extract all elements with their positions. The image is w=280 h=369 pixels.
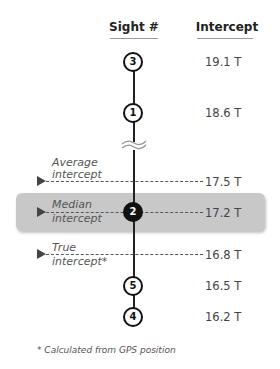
sight-5-intercept: 16.5 T <box>205 279 241 293</box>
intercept-column-header: Intercept <box>195 20 259 34</box>
average-intercept-label: Average intercept <box>52 157 102 181</box>
axis-break-icon <box>120 138 148 152</box>
median-intercept-value: 17.2 T <box>205 206 241 220</box>
sight-header-underline <box>110 38 158 39</box>
intercept-header-underline <box>197 38 253 39</box>
median-arrow-icon <box>37 207 46 217</box>
footnote: * Calculated from GPS position <box>37 345 176 355</box>
sight-1-intercept: 18.6 T <box>205 106 241 120</box>
true-intercept-label: True intercept* <box>52 242 107 268</box>
sight-node-4: 4 <box>123 307 143 327</box>
average-arrow-icon <box>37 176 46 186</box>
true-arrow-icon <box>37 249 46 259</box>
sight-node-2: 2 <box>123 202 143 222</box>
sight-3-intercept: 19.1 T <box>205 55 241 69</box>
average-intercept-value: 17.5 T <box>205 175 241 189</box>
average-dashed-line <box>46 181 203 182</box>
sight-node-3: 3 <box>123 52 143 72</box>
timeline-line-top <box>133 62 135 142</box>
sight-column-header: Sight # <box>108 20 160 34</box>
sight-node-1: 1 <box>123 103 143 123</box>
sight-node-5: 5 <box>123 276 143 296</box>
sight-4-intercept: 16.2 T <box>205 310 241 324</box>
median-intercept-label: Median intercept <box>52 199 102 225</box>
true-intercept-value: 16.8 T <box>205 248 241 262</box>
